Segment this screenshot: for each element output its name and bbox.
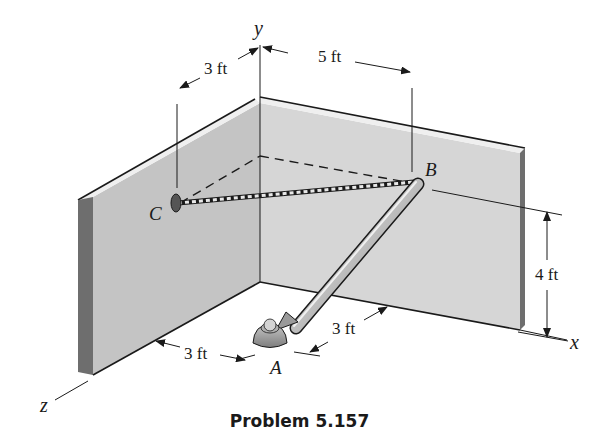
x-axis-line: [520, 330, 567, 340]
x-axis-label: x: [570, 332, 579, 352]
y-axis-label: y: [254, 18, 263, 38]
dim-b-from-corner: 5 ft: [316, 48, 343, 65]
figure-caption: Problem 5.157: [0, 411, 599, 431]
statics-diagram: [0, 0, 599, 440]
dim-b-height: 4 ft: [533, 266, 560, 283]
dim-c-from-corner: 3 ft: [202, 60, 229, 77]
dim-a-from-left-wall: 3 ft: [182, 345, 209, 362]
z-axis-line: [55, 381, 88, 400]
point-B-label: B: [425, 160, 437, 179]
dim-a-from-back-wall: 3 ft: [330, 320, 357, 337]
left-wall: [78, 99, 260, 375]
point-C-label: C: [149, 204, 162, 223]
point-A-label: A: [270, 358, 282, 377]
eyebolt-C: [171, 194, 181, 212]
